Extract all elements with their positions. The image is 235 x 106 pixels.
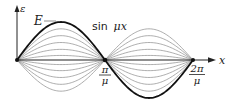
curve-E-label: E	[33, 14, 43, 28]
sine-family-diagram: ε x E sin μx π μ 2π μ	[0, 0, 235, 106]
tick-pi-den: μ	[102, 75, 109, 86]
node-2pi	[191, 58, 195, 62]
tick-2pi-over-mu: 2π μ	[189, 63, 205, 86]
x-axis-label: x	[219, 54, 226, 67]
node-0	[15, 58, 19, 62]
tick-pi-num: π	[101, 64, 109, 75]
tick-pi-over-mu: π μ	[99, 64, 111, 86]
function-label: sin μx	[92, 20, 128, 33]
function-label-sin: sin	[92, 20, 108, 33]
node-pi	[103, 58, 108, 63]
y-axis-label: ε	[20, 3, 25, 14]
function-label-var: μx	[114, 20, 128, 33]
y-axis-arrow-icon	[15, 5, 20, 12]
tick-2pi-den: μ	[194, 75, 201, 86]
tick-2pi-num: 2π	[190, 63, 204, 74]
x-axis-arrow-icon	[208, 57, 216, 62]
